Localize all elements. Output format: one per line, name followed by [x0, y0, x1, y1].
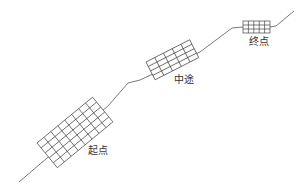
start-label: 起点 — [88, 146, 108, 156]
end-label: 终点 — [249, 37, 269, 47]
route-line-end — [270, 11, 294, 27]
end-grid — [243, 21, 270, 33]
start-grid — [37, 97, 113, 167]
middle-label: 中途 — [174, 75, 194, 85]
route-diagram — [0, 0, 304, 191]
